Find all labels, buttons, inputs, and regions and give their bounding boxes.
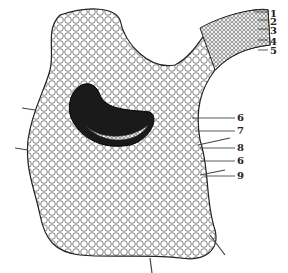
- label-7: 7: [237, 126, 244, 136]
- label-9: 9: [237, 171, 244, 181]
- label-8: 8: [237, 143, 244, 153]
- label-6-lower: 6: [237, 156, 244, 166]
- leaf-cross-section-drawing: [0, 0, 288, 273]
- label-6-upper: 6: [237, 113, 244, 123]
- label-5: 5: [270, 46, 277, 56]
- label-3: 3: [270, 26, 277, 36]
